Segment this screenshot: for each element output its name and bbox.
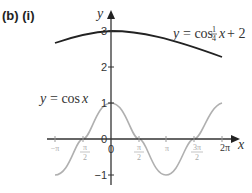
- x-tick-three-half-pi-den: 2: [195, 153, 199, 162]
- svg-text:y: y: [171, 26, 180, 41]
- x-tick-neg-half-pi-den: 2: [83, 153, 87, 162]
- x-axis-label: x: [237, 137, 245, 152]
- svg-text:y: y: [38, 91, 47, 106]
- lower-curve-label: y = cos x: [38, 91, 89, 106]
- x-tick-neg-half-pi-num: π: [83, 143, 87, 152]
- y-tick-1: 1: [101, 97, 107, 109]
- y-tick-2: 2: [101, 61, 107, 73]
- y-axis-arrow-icon: [107, 10, 115, 19]
- y-tick-3: 3: [101, 25, 107, 37]
- graph: 3 2 1 0 −1 0 −π π 2 π 2 π 3π 2 2π x y y …: [0, 0, 252, 193]
- svg-text:4: 4: [212, 34, 216, 43]
- x-tick-half-pi-den: 2: [137, 153, 141, 162]
- x-tick-pi: π: [165, 144, 169, 153]
- y-tick-neg1: −1: [94, 169, 107, 181]
- x-tick-half-pi-num: π: [137, 143, 141, 152]
- y-axis-label: y: [95, 6, 104, 21]
- svg-text:= cos: = cos: [50, 91, 80, 106]
- svg-text:= cos: = cos: [183, 26, 213, 41]
- x-tick-three-half-pi-num: 3π: [193, 143, 201, 152]
- upper-curve-label: y = cos 1 4 x + 2: [171, 25, 245, 43]
- x-tick-neg-pi: −π: [51, 144, 60, 153]
- svg-text:x: x: [81, 91, 89, 106]
- origin-label: 0: [108, 143, 114, 155]
- svg-text:x: x: [218, 26, 226, 41]
- svg-text:+ 2: + 2: [227, 26, 245, 41]
- x-tick-2pi: 2π: [220, 142, 230, 153]
- y-tick-0: 0: [101, 133, 107, 145]
- svg-text:1: 1: [212, 25, 216, 34]
